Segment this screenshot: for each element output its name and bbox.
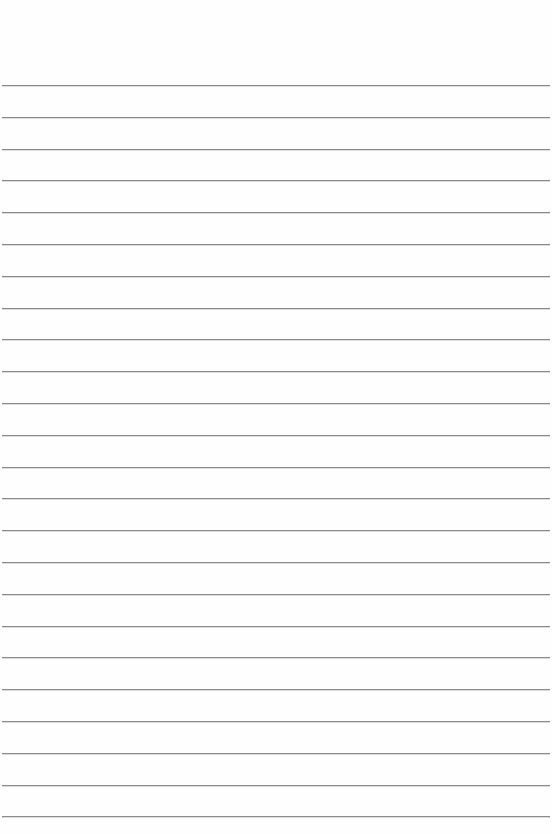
ruled-line <box>2 276 550 277</box>
ruled-line <box>2 530 550 531</box>
ruled-line <box>2 498 550 499</box>
ruled-line <box>2 785 550 786</box>
ruled-line <box>2 149 550 150</box>
ruled-line <box>2 308 550 309</box>
ruled-line <box>2 467 550 468</box>
ruled-line <box>2 244 550 245</box>
ruled-line <box>2 435 550 436</box>
ruled-line <box>2 753 550 754</box>
ruled-line <box>2 371 550 372</box>
ruled-line <box>2 657 550 658</box>
ruled-line <box>2 180 550 181</box>
ruled-line <box>2 816 550 817</box>
ruled-line <box>2 403 550 404</box>
ruled-line <box>2 339 550 340</box>
ruled-line <box>2 117 550 118</box>
ruled-line <box>2 721 550 722</box>
ruled-line <box>2 212 550 213</box>
lined-paper <box>0 0 552 834</box>
ruled-line <box>2 594 550 595</box>
ruled-line <box>2 85 550 86</box>
ruled-line <box>2 626 550 627</box>
ruled-line <box>2 689 550 690</box>
ruled-line <box>2 562 550 563</box>
